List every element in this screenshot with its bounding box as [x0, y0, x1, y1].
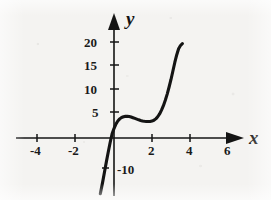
y-tick-label--10: -10: [117, 163, 134, 176]
y-axis-label: y: [126, 9, 134, 28]
y-axis-arrow-icon: [108, 13, 120, 30]
x-tick-label-6: 6: [224, 144, 231, 157]
x-tick-label--4: -4: [30, 144, 41, 157]
x-axis-label: x: [249, 128, 259, 147]
y-tick-label-5: 5: [92, 106, 99, 119]
x-tick-label--2: -2: [68, 144, 79, 157]
y-tick-marks: [102, 42, 119, 168]
graph-figure: -4 -2 2 4 6 20 15 10 5 -10 y x: [0, 0, 271, 200]
y-tick-label-20: 20: [84, 36, 97, 49]
y-tick-label-15: 15: [84, 59, 97, 72]
x-tick-label-2: 2: [148, 144, 155, 157]
cubic-curve: [100, 44, 182, 194]
cubic-graph-svg: [0, 0, 271, 200]
y-tick-label-10: 10: [84, 83, 97, 96]
x-tick-label-4: 4: [186, 144, 193, 157]
